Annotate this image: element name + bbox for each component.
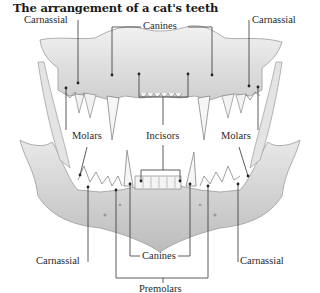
- label-upper-canines: Canines: [143, 20, 177, 32]
- label-upper-carnassial-right: Carnassial: [252, 14, 296, 26]
- label-lower-carnassial-left: Carnassial: [36, 255, 80, 267]
- label-premolars: Premolars: [139, 283, 182, 293]
- label-incisors: Incisors: [146, 130, 179, 142]
- upper-jaw: [40, 26, 282, 140]
- label-upper-carnassial-left: Carnassial: [24, 14, 68, 26]
- label-lower-canines: Canines: [142, 250, 176, 262]
- label-molars-right: Molars: [221, 130, 251, 142]
- label-lower-carnassial-right: Carnassial: [240, 255, 284, 267]
- label-molars-left: Molars: [72, 130, 102, 142]
